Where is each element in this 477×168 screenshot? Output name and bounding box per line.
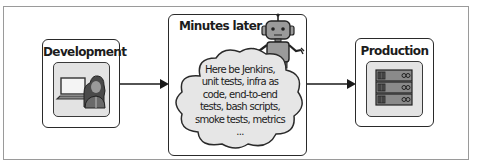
developer-laptop-icon [54,63,108,115]
cloud-line: smoke tests, metrics [188,114,292,126]
cloud-line: ... [188,126,292,138]
stage-production: Production [355,38,434,127]
cloud-line: code, end-to-end [188,89,292,101]
stage-title-development: Development [43,45,119,59]
cloud-line: tests, bash scripts, [188,101,292,113]
server-rack-icon [367,62,421,115]
stage-development: Development [42,39,120,128]
cloud-line: unit tests, infra as [188,76,292,88]
arrow-dev-to-pipeline [120,78,170,90]
developer-tile [53,62,110,117]
arrow-pipeline-to-prod [307,78,357,90]
cloud-text: Here be Jenkins, unit tests, infra as co… [188,64,292,138]
server-tile [366,61,423,117]
stage-title-production: Production [356,44,433,58]
cloud-line: Here be Jenkins, [188,64,292,76]
